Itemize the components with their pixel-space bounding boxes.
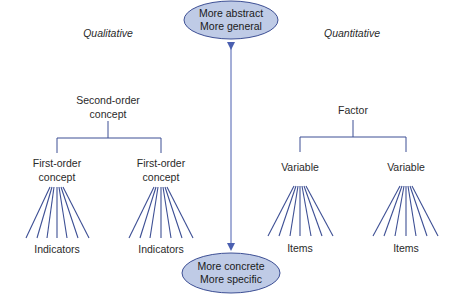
indicators-label-left: Indicators xyxy=(34,242,80,256)
items-label-left: Items xyxy=(287,241,313,255)
item-fan-right xyxy=(373,186,438,236)
indicator-fan-left xyxy=(26,187,89,238)
qualitative-tree-connectors xyxy=(57,121,161,153)
abstract-line-1: More abstract xyxy=(199,7,263,20)
node-line-1: Second-order xyxy=(76,93,140,107)
node-line-2: concept xyxy=(76,107,140,121)
indicator-fan-right xyxy=(129,187,193,238)
abstract-ellipse-text: More abstract More general xyxy=(199,7,263,33)
first-order-concept-node-right: First-order concept xyxy=(137,156,185,184)
node-line-2: concept xyxy=(137,170,185,184)
node-line-2: concept xyxy=(33,170,81,184)
concrete-line-2: More specific xyxy=(197,273,264,286)
items-label-right: Items xyxy=(393,241,419,255)
concrete-line-1: More concrete xyxy=(197,260,264,273)
qualitative-label: Qualitative xyxy=(83,26,133,40)
node-line-1: First-order xyxy=(33,156,81,170)
node-line-1: First-order xyxy=(137,156,185,170)
concrete-ellipse-text: More concrete More specific xyxy=(197,260,264,286)
variable-node-right: Variable xyxy=(387,160,425,174)
factor-node: Factor xyxy=(338,103,368,117)
quantitative-tree-connectors xyxy=(300,120,406,152)
indicators-label-right: Indicators xyxy=(138,242,184,256)
second-order-concept-node: Second-order concept xyxy=(76,93,140,121)
first-order-concept-node-left: First-order concept xyxy=(33,156,81,184)
quantitative-label: Quantitative xyxy=(324,26,380,40)
item-fan-left xyxy=(268,186,333,236)
variable-node-left: Variable xyxy=(281,160,319,174)
abstract-line-2: More general xyxy=(199,20,263,33)
